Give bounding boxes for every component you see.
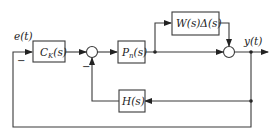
input-minus-sign: − [17, 55, 25, 66]
block-diagram: CK(s) Pn(s) W(s)Δ(s) y(t) H(s) e(t) − − [0, 0, 278, 134]
uncertainty-block: W(s)Δ(s) [172, 12, 222, 35]
uncertainty-label: W(s)Δ(s) [176, 17, 222, 29]
summing-junction-1 [87, 47, 98, 58]
output-signal-label: y(t) [243, 35, 262, 47]
controller-label-main: C [40, 46, 48, 58]
controller-block: CK(s) [33, 41, 67, 62]
inner-feedback-label: H(s) [121, 95, 145, 107]
controller-label-arg: (s) [53, 46, 67, 58]
branch-to-uncertainty-arrow [155, 23, 171, 52]
summing-junction-2 [224, 47, 235, 58]
inner-feedback-block: H(s) [119, 90, 145, 112]
H-to-sum1-arrow [92, 58, 119, 101]
sum1-minus-sign: − [82, 61, 90, 72]
branch-point-output [249, 50, 253, 54]
input-signal-label: e(t) [14, 30, 33, 42]
nominal-plant-block: Pn(s) [118, 41, 147, 63]
